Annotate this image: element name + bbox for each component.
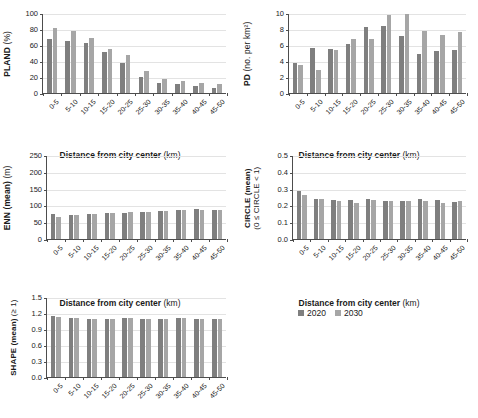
bar-2030-10-15 [92, 214, 97, 239]
bar-2030-0-5 [302, 195, 307, 239]
bar-2030-20-25 [128, 212, 133, 239]
y-tick-label: 0.3 [18, 357, 42, 366]
bar-2020-45-50 [212, 88, 217, 93]
y-tick-label: 10 [260, 9, 284, 18]
y-tick-label: 0.3 [264, 185, 288, 194]
bar-2020-5-10 [69, 215, 74, 239]
bar-2030-20-25 [371, 200, 376, 239]
bar-group [397, 156, 414, 239]
x-tick [117, 93, 118, 96]
bar-2030-10-15 [92, 319, 97, 378]
x-tick [449, 93, 450, 96]
x-tick [363, 239, 364, 242]
bar-group [137, 298, 155, 377]
x-tick [380, 239, 381, 242]
legend-item-2030[interactable]: 2030 [335, 308, 363, 318]
bar-2030-10-15 [334, 50, 339, 93]
bar-group [119, 156, 137, 239]
x-tick [325, 93, 326, 96]
bar-2020-5-10 [65, 41, 70, 93]
bar-2030-35-40 [182, 318, 187, 377]
x-tick [209, 377, 210, 380]
x-tick [396, 93, 397, 96]
bar-2020-5-10 [314, 199, 319, 239]
x-tick [137, 377, 138, 380]
bar-2030-20-25 [128, 318, 133, 377]
x-tick [47, 239, 48, 242]
bar-2020-40-45 [435, 200, 440, 239]
x-tick [307, 93, 308, 96]
bar-2030-5-10 [319, 199, 324, 239]
bar-2020-40-45 [193, 86, 198, 93]
bar-group [448, 14, 466, 93]
plot-area [288, 14, 466, 94]
legend-item-2020[interactable]: 2020 [298, 308, 326, 318]
chart-pland: PLAND (%)0204060801000-55-1010-1515-2020… [0, 4, 240, 140]
x-tick [467, 93, 468, 96]
bar-group [360, 14, 378, 93]
legend-label: 2030 [344, 308, 363, 318]
x-tick [227, 93, 228, 96]
bar-group [431, 156, 448, 239]
y-axis-title: PD (no. per km²) [240, 14, 256, 94]
x-tick [450, 239, 451, 242]
bar-group [190, 156, 208, 239]
bar-2020-15-20 [105, 319, 110, 378]
y-tick-label: 50 [18, 218, 42, 227]
bar-2020-25-30 [381, 26, 386, 93]
bar-group-container [293, 156, 466, 239]
bar-2030-40-45 [441, 203, 446, 239]
bar-2030-40-45 [200, 319, 205, 377]
bar-group [153, 14, 171, 93]
bar-2020-20-25 [120, 63, 125, 93]
bar-group [431, 14, 449, 93]
x-tick [172, 93, 173, 96]
y-tick-label: 100 [14, 9, 38, 18]
x-tick [65, 377, 66, 380]
plot-area [46, 298, 226, 378]
x-tick [328, 239, 329, 242]
bar-2030-30-35 [162, 79, 167, 93]
bar-group [154, 156, 172, 239]
bar-2020-0-5 [293, 63, 298, 93]
y-tick-label: 0.2 [264, 201, 288, 210]
bar-2020-10-15 [87, 214, 92, 239]
bar-2030-25-30 [146, 212, 151, 239]
x-tick [191, 239, 192, 242]
bar-2030-10-15 [337, 201, 342, 239]
bar-group [345, 156, 362, 239]
chart-circle: CIRCLE (mean) (0 ≤ CIRCLE < 1)0.00.10.20… [240, 146, 478, 284]
bar-group [61, 14, 79, 93]
x-tick [432, 239, 433, 242]
bar-2020-35-40 [176, 210, 181, 239]
bar-group [80, 14, 98, 93]
x-tick [190, 93, 191, 96]
bar-2020-30-35 [400, 201, 405, 239]
legend-label: 2020 [307, 308, 326, 318]
bar-group-container [289, 14, 466, 93]
bar-2020-10-15 [87, 319, 92, 378]
bar-group [449, 156, 466, 239]
x-tick [119, 239, 120, 242]
chart-enn: ENN (mean) (m)0501001502002500-55-1010-1… [0, 146, 240, 284]
bar-2030-45-50 [458, 32, 463, 93]
bar-2030-30-35 [164, 319, 169, 377]
x-tick [293, 239, 294, 242]
bar-group [137, 156, 155, 239]
x-tick [135, 93, 136, 96]
bar-group [208, 298, 226, 377]
bar-2030-25-30 [146, 319, 151, 377]
y-tick-label: 0 [260, 89, 284, 98]
bar-2020-20-25 [364, 27, 369, 93]
x-tick [414, 93, 415, 96]
y-tick-label: 40 [14, 57, 38, 66]
bar-2030-15-20 [351, 39, 356, 93]
bar-2030-30-35 [405, 14, 410, 93]
bar-2020-20-25 [122, 318, 127, 377]
bar-2030-35-40 [423, 201, 428, 239]
bar-2030-10-15 [89, 38, 94, 93]
bar-2020-45-50 [212, 210, 217, 239]
bar-group [310, 156, 327, 239]
bar-2030-20-25 [369, 39, 374, 93]
bar-2020-30-35 [158, 319, 163, 377]
